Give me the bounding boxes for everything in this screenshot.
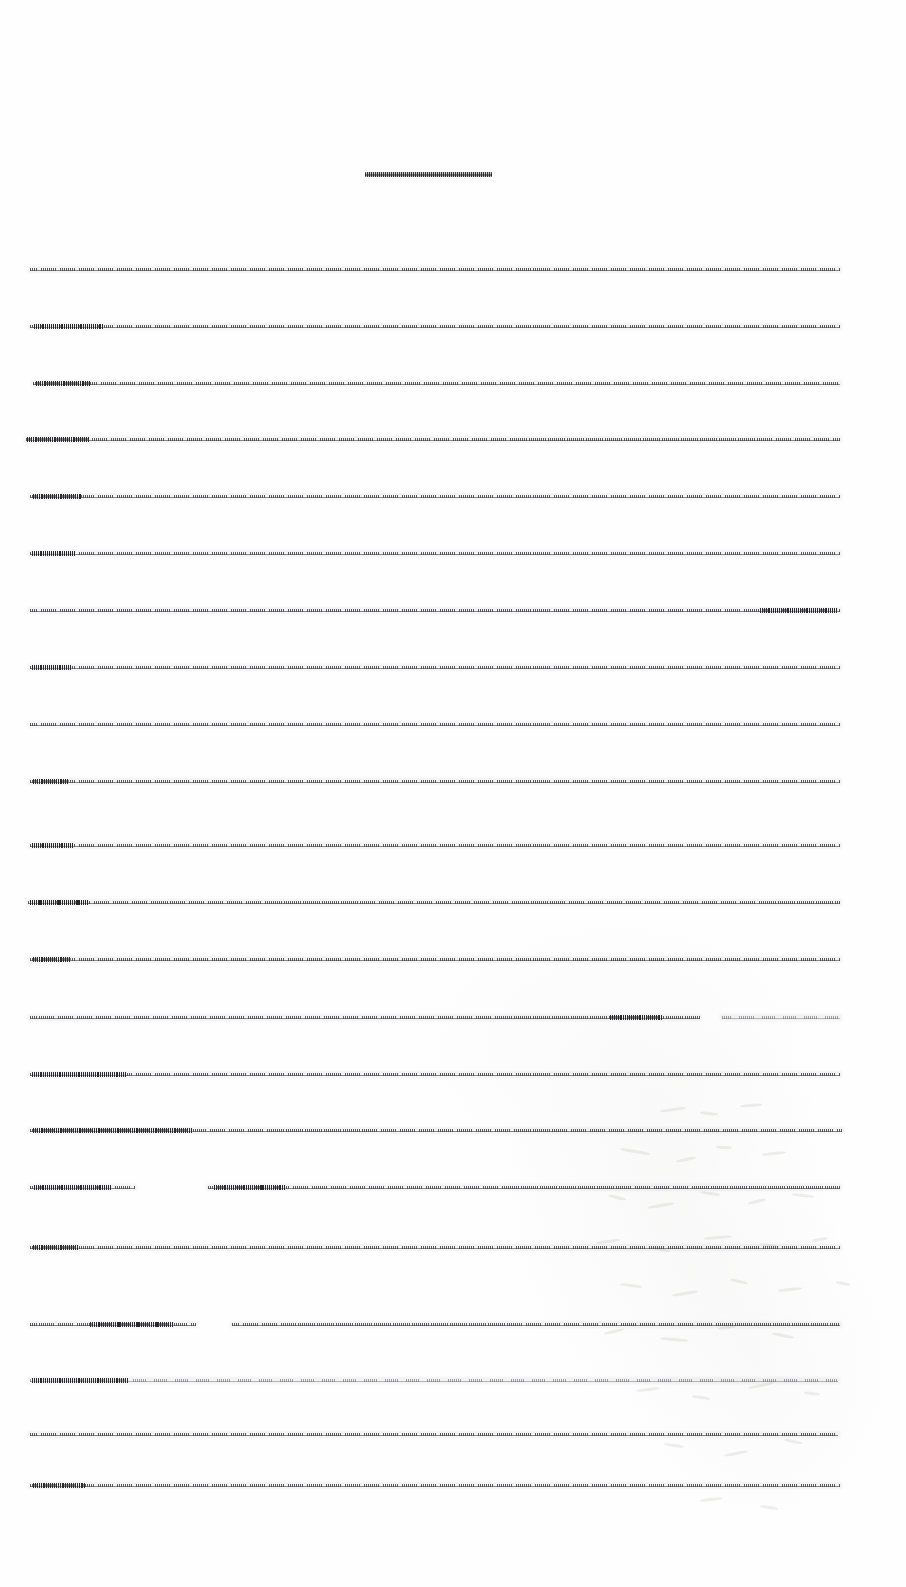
text-line-segment bbox=[208, 1185, 840, 1190]
text-line bbox=[0, 437, 906, 442]
text-baseline bbox=[30, 668, 840, 669]
text-line bbox=[0, 1245, 906, 1250]
text-line-segment bbox=[28, 900, 840, 905]
text-line bbox=[0, 608, 906, 613]
text-baseline bbox=[30, 554, 840, 555]
document-title bbox=[365, 172, 492, 177]
ink-density-bump bbox=[760, 608, 838, 613]
ink-density-bump bbox=[610, 1015, 662, 1020]
text-line bbox=[0, 1072, 906, 1077]
ink-density-bump bbox=[30, 900, 88, 905]
showthrough-stroke bbox=[740, 1103, 762, 1108]
text-line bbox=[0, 324, 906, 329]
showthrough-stroke bbox=[784, 1438, 802, 1445]
text-baseline bbox=[30, 270, 840, 271]
showthrough-stroke bbox=[804, 1391, 820, 1396]
text-line bbox=[0, 267, 906, 272]
text-baseline bbox=[30, 1435, 838, 1436]
showthrough-stroke bbox=[672, 1290, 698, 1297]
text-line-segment bbox=[30, 1245, 840, 1250]
ink-density-bump bbox=[33, 779, 69, 784]
text-line bbox=[0, 381, 906, 386]
ink-density-bump bbox=[36, 381, 90, 386]
ink-density-bump bbox=[32, 1072, 126, 1077]
text-baseline bbox=[26, 440, 840, 441]
ink-density-bump bbox=[33, 1128, 193, 1133]
text-line-segment bbox=[30, 843, 840, 848]
text-line-segment bbox=[30, 324, 840, 329]
showthrough-stroke bbox=[836, 1281, 850, 1286]
showthrough-stroke bbox=[812, 1237, 828, 1243]
text-line-segment bbox=[30, 267, 840, 272]
text-line bbox=[0, 1322, 906, 1327]
text-line-segment bbox=[30, 1015, 700, 1020]
text-baseline bbox=[30, 611, 840, 612]
text-baseline bbox=[30, 1486, 840, 1487]
text-line-segment bbox=[30, 1072, 840, 1077]
text-baseline bbox=[30, 960, 840, 961]
text-baseline bbox=[30, 497, 840, 498]
text-line bbox=[0, 1185, 906, 1190]
text-line bbox=[0, 1128, 906, 1133]
text-baseline bbox=[30, 1381, 838, 1382]
text-line-segment bbox=[30, 957, 840, 962]
text-line bbox=[0, 957, 906, 962]
showthrough-stroke bbox=[704, 1235, 732, 1240]
text-baseline bbox=[722, 1018, 840, 1019]
ink-density-bump bbox=[27, 437, 89, 442]
showthrough-stroke bbox=[620, 1147, 650, 1155]
text-baseline bbox=[30, 1075, 840, 1076]
ink-density-bump bbox=[34, 324, 104, 329]
showthrough-stroke bbox=[636, 1387, 660, 1393]
showthrough-stroke bbox=[716, 1145, 732, 1149]
text-line-segment bbox=[30, 1483, 840, 1488]
text-baseline bbox=[30, 725, 840, 726]
paper-grain-overlay bbox=[0, 0, 906, 1587]
showthrough-stroke bbox=[700, 1497, 722, 1502]
showthrough-stroke bbox=[792, 1193, 814, 1198]
showthrough-stroke bbox=[724, 1450, 748, 1457]
text-line-segment bbox=[30, 1378, 838, 1383]
showthrough-stroke bbox=[604, 1328, 624, 1335]
ink-density-bump bbox=[32, 1378, 128, 1383]
text-line-segment bbox=[26, 437, 840, 442]
ink-density-bump bbox=[33, 957, 71, 962]
showthrough-stroke bbox=[700, 1191, 720, 1197]
ink-density-bump bbox=[32, 843, 74, 848]
text-baseline bbox=[208, 1188, 840, 1189]
text-line bbox=[0, 779, 906, 784]
text-line bbox=[0, 494, 906, 499]
text-line bbox=[0, 1378, 906, 1383]
text-line bbox=[0, 1015, 906, 1020]
showthrough-stroke bbox=[660, 1106, 686, 1113]
text-line-segment bbox=[30, 779, 840, 784]
text-line-segment bbox=[30, 494, 840, 499]
text-line bbox=[0, 1432, 906, 1437]
ink-density-bump bbox=[33, 1245, 79, 1250]
showthrough-stroke bbox=[660, 1337, 688, 1342]
text-line bbox=[0, 900, 906, 905]
text-line-segment bbox=[30, 608, 840, 613]
showthrough-stroke bbox=[778, 1287, 802, 1292]
text-line bbox=[0, 1483, 906, 1488]
showthrough-stroke bbox=[648, 1202, 674, 1209]
ink-density-bump bbox=[90, 1322, 174, 1327]
showthrough-stroke bbox=[760, 1505, 778, 1511]
ink-density-bump bbox=[32, 665, 72, 670]
text-line-segment bbox=[33, 381, 840, 386]
text-baseline bbox=[33, 384, 840, 385]
showthrough-stroke bbox=[664, 1443, 684, 1449]
ink-density-bump bbox=[33, 1483, 85, 1488]
text-line-segment bbox=[722, 1015, 840, 1020]
text-line bbox=[0, 665, 906, 670]
showthrough-stroke bbox=[700, 1111, 718, 1116]
text-baseline bbox=[30, 1018, 700, 1019]
text-line-segment bbox=[30, 665, 840, 670]
ink-density-bump bbox=[32, 551, 76, 556]
text-line-segment bbox=[30, 551, 840, 556]
showthrough-stroke bbox=[772, 1332, 794, 1339]
text-line bbox=[0, 551, 906, 556]
text-baseline bbox=[30, 846, 840, 847]
showthrough-stroke bbox=[692, 1395, 710, 1401]
text-line-segment bbox=[30, 1432, 838, 1437]
